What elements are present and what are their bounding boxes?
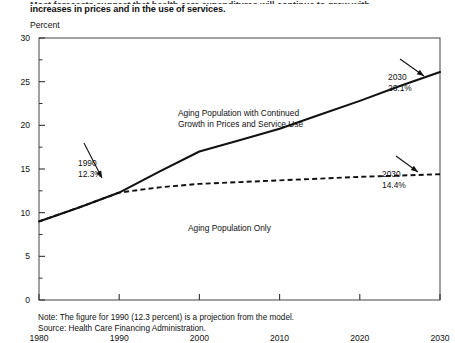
annotation-1990-year: 1990 [78, 158, 102, 169]
x-tick-label: 2020 [340, 333, 380, 343]
series-line-aging-only [39, 174, 440, 221]
annotation-2030-upper-year: 2030 [388, 72, 412, 83]
y-tick-label: 20 [10, 120, 30, 130]
footnote-note: Note: The figure for 1990 (12.3 percent)… [38, 313, 294, 324]
series-label-lower-line1: Aging Population Only [188, 223, 271, 234]
y-tick-label: 5 [10, 251, 30, 261]
series-label-upper-line2: Growth in Prices and Service Use [178, 119, 303, 130]
series-label-aging-only: Aging Population Only [188, 223, 271, 234]
chart-figure: Aging Population with Continued Growth i… [0, 30, 455, 310]
annotation-2030-lower-year: 2030 [382, 169, 406, 180]
chart-footnotes: Note: The figure for 1990 (12.3 percent)… [38, 313, 294, 334]
intro-paragraph: Most forecasts suggest that health care … [30, 0, 450, 15]
x-tick-label: 2000 [179, 333, 219, 343]
y-tick-label: 30 [10, 33, 30, 43]
x-tick-label: 2010 [260, 333, 300, 343]
x-tick-label: 2030 [420, 333, 455, 343]
intro-visible-line: increases in prices and in the use of se… [30, 4, 225, 14]
x-tick-label: 1980 [19, 333, 59, 343]
series-label-aging-with-growth: Aging Population with Continued Growth i… [178, 108, 303, 129]
annotation-2030-upper-percent: 26.1% [388, 83, 412, 94]
annotation-2030-lower-percent: 14.4% [382, 180, 406, 191]
y-tick-label: 15 [10, 164, 30, 174]
annotation-1990-percent: 12.3% [78, 169, 102, 180]
x-tick-label: 1990 [99, 333, 139, 343]
y-tick-label: 10 [10, 208, 30, 218]
series-line-aging-with-growth [39, 72, 440, 221]
y-axis-unit-label: Percent [30, 20, 60, 30]
footnote-source: Source: Health Care Financing Administra… [38, 324, 294, 335]
y-tick-label: 25 [10, 77, 30, 87]
annotation-2030-upper-value: 2030 26.1% [388, 72, 412, 93]
annotation-2030-lower-value: 2030 14.4% [382, 169, 406, 190]
annotation-1990-value: 1990 12.3% [78, 158, 102, 179]
y-tick-label: 0 [10, 295, 30, 305]
series-label-upper-line1: Aging Population with Continued [178, 108, 303, 119]
